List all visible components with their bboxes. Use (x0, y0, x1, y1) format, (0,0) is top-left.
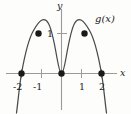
point-local-max-left (35, 30, 41, 36)
function-graph-figure: y x g(x) 1 -2 -1 1 2 (0, 0, 131, 114)
y-axis-label: y (57, 1, 62, 11)
x-tick-label-2: 2 (99, 82, 105, 92)
x-tick-label-1: 1 (79, 82, 85, 92)
x-tick-label-neg1: -1 (33, 82, 42, 92)
point-local-min-origin (58, 70, 64, 76)
point-root-left (18, 70, 24, 76)
x-axis-label: x (120, 68, 125, 78)
curve-label-g-of-x: g(x) (95, 14, 115, 24)
point-local-max-right (81, 30, 87, 36)
y-tick-label-1: 1 (47, 29, 53, 39)
x-tick-label-neg2: -2 (13, 82, 22, 92)
point-root-right (98, 70, 104, 76)
